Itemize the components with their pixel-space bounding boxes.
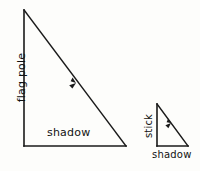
- flag-pole-label: flag pole: [16, 48, 27, 108]
- stick-hypotenuse-sun-ray: [157, 104, 188, 146]
- diagram-canvas: [0, 0, 200, 171]
- stick-label: stick: [144, 107, 154, 145]
- similar-triangles-diagram: flag pole shadow stick shadow: [0, 0, 200, 171]
- sun-ray-arrow-icon-tail: [69, 83, 76, 89]
- flag-pole-shadow-label: shadow: [47, 127, 90, 138]
- stick-shadow-label: shadow: [152, 150, 192, 160]
- stick-triangle: [157, 104, 188, 146]
- stick-sun-ray-arrow-icon-tail: [165, 123, 171, 128]
